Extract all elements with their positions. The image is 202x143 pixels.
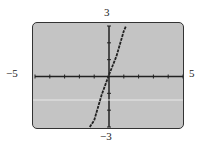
calculator-screen <box>32 22 184 129</box>
plot-area <box>33 23 184 129</box>
xmin-label: −5 <box>6 68 18 79</box>
ymax-label: 3 <box>104 7 110 18</box>
ymin-label: −3 <box>100 131 112 142</box>
xmax-label: 5 <box>189 68 195 79</box>
